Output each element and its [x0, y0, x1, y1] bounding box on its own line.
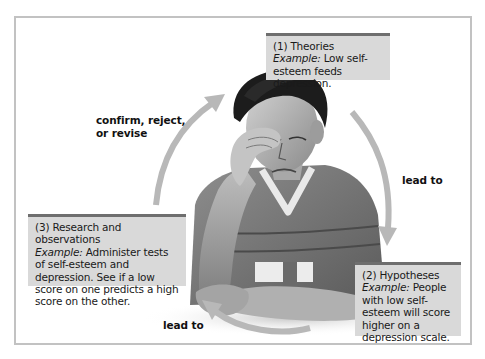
node-theories: (1) Theories Example: Low self-esteem fe… — [266, 33, 390, 80]
node-research: (3) Research and observations Example: A… — [28, 214, 186, 286]
edge-label-line-1: confirm, reject, — [96, 114, 186, 127]
node-theories-example-label: Example: — [273, 52, 321, 64]
edge-label-confirm-reject-revise: confirm, reject, or revise — [96, 114, 186, 139]
node-research-example-label: Example: — [35, 246, 83, 258]
edge-label-line-2: or revise — [96, 127, 186, 140]
node-research-title: (3) Research and observations — [35, 221, 180, 246]
edge-label-theories-to-hypotheses: lead to — [402, 174, 443, 187]
node-hypotheses-example-label: Example: — [362, 281, 410, 293]
node-theories-title: (1) Theories — [273, 40, 384, 52]
node-hypotheses-title: (2) Hypotheses — [362, 269, 455, 281]
node-hypotheses: (2) Hypotheses Example: People with low … — [355, 262, 461, 336]
edge-label-hypotheses-to-research: lead to — [163, 319, 204, 332]
